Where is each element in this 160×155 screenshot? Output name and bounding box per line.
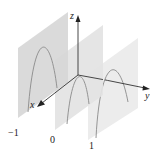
y-axis-label: y xyxy=(144,90,150,101)
plane-label-neg1: −1 xyxy=(8,127,19,138)
trace-diagram: z y x −1 0 1 xyxy=(0,0,160,155)
plane-label-0: 0 xyxy=(50,134,55,145)
plane-label-1: 1 xyxy=(89,140,94,151)
x-axis-label: x xyxy=(29,99,35,110)
z-axis-label: z xyxy=(69,10,74,21)
